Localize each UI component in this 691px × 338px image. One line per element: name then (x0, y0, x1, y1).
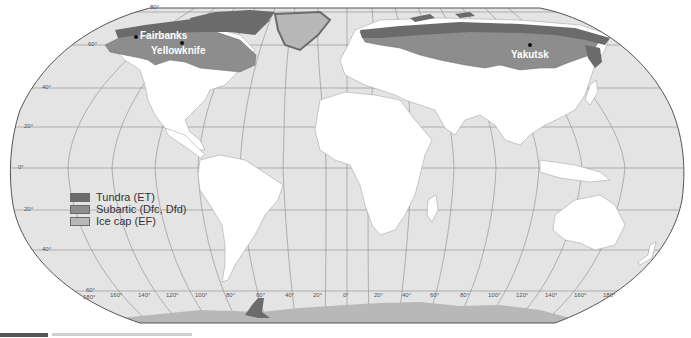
legend-item-tundra: Tundra (ET) (70, 192, 186, 203)
longitude-label: 120° (516, 292, 528, 298)
world-map (0, 0, 691, 338)
longitude-label: 0° (343, 292, 349, 298)
city-label-yellowknife: Yellowknife (151, 45, 205, 56)
latitude-label-60s: 60° (86, 287, 95, 293)
city-dot-yakutsk (528, 43, 532, 47)
longitude-label: 80° (460, 292, 469, 298)
legend-label-ice-cap: Ice cap (EF) (96, 216, 156, 227)
longitude-label: 160° (574, 292, 586, 298)
longitude-label: 100° (195, 292, 207, 298)
legend-swatch-tundra (70, 193, 90, 202)
longitude-label: 60° (430, 292, 439, 298)
longitude-label: 140° (545, 292, 557, 298)
latitude-label-0: 0° (18, 164, 24, 170)
longitude-label: 140° (138, 292, 150, 298)
latitude-label-80: 80° (150, 4, 159, 10)
city-label-yakutsk: Yakutsk (511, 49, 549, 60)
longitude-label: 20° (313, 292, 322, 298)
longitude-label: 160° (110, 292, 122, 298)
legend-label-subarctic: Subartic (Dfc, Dfd) (96, 204, 186, 215)
latitude-label-20s: 20° (24, 206, 33, 212)
longitude-label: 20° (374, 292, 383, 298)
figure-caption-label-cropped (0, 333, 48, 337)
longitude-label: 40° (285, 292, 294, 298)
legend-item-subarctic: Subartic (Dfc, Dfd) (70, 204, 186, 215)
longitude-label: 40° (402, 292, 411, 298)
city-dot-fairbanks (134, 35, 138, 39)
city-label-fairbanks: Fairbanks (140, 30, 187, 41)
legend-swatch-subarctic (70, 205, 90, 214)
latitude-label-40s: 40° (42, 246, 51, 252)
longitude-label: 180° (83, 294, 95, 300)
longitude-label: 120° (166, 292, 178, 298)
legend-label-tundra: Tundra (ET) (96, 192, 155, 203)
figure-caption-text-cropped (52, 333, 192, 336)
legend-item-ice-cap: Ice cap (EF) (70, 216, 186, 227)
latitude-label-20n: 20° (24, 123, 33, 129)
legend-swatch-ice-cap (70, 217, 90, 226)
longitude-label: 60° (256, 292, 265, 298)
longitude-label: 100° (488, 292, 500, 298)
map-legend: Tundra (ET) Subartic (Dfc, Dfd) Ice cap … (70, 192, 186, 228)
latitude-label-60n: 60° (88, 41, 97, 47)
latitude-label-40n: 40° (42, 84, 51, 90)
longitude-label: 180° (603, 292, 615, 298)
longitude-label: 80° (226, 292, 235, 298)
